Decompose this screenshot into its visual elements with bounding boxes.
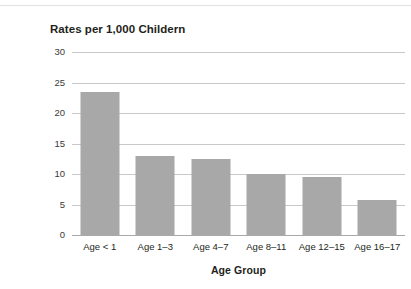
y-axis-tick-label: 5 <box>60 200 65 210</box>
bar-chart-figure: Rates per 1,000 Childern 051015202530 Ag… <box>0 0 411 289</box>
bar-group: Age < 1 <box>72 52 128 235</box>
y-axis-tick-label: 20 <box>54 108 65 118</box>
bar <box>302 177 341 235</box>
y-axis-tick-label: 30 <box>54 47 65 57</box>
bar-group: Age 1–3 <box>128 52 184 235</box>
x-axis-title: Age Group <box>72 264 405 276</box>
bar <box>80 92 119 235</box>
x-axis-tick-label: Age 1–3 <box>138 242 173 252</box>
y-axis-tick-label: 0 <box>60 230 65 240</box>
x-axis-tick-label: Age 8–11 <box>246 242 286 252</box>
y-axis-tick-label: 25 <box>54 78 65 88</box>
bar-group: Age 8–11 <box>239 52 295 235</box>
bar <box>191 159 230 235</box>
bar-group: Age 16–17 <box>350 52 406 235</box>
bars-group: Age < 1Age 1–3Age 4–7Age 8–11Age 12–15Ag… <box>72 52 405 235</box>
y-axis-tick-label: 15 <box>54 139 65 149</box>
bar <box>247 174 286 235</box>
bar <box>136 156 175 235</box>
y-axis-tick-label: 10 <box>54 169 65 179</box>
x-axis-tick-label: Age 4–7 <box>193 242 228 252</box>
bar-group: Age 4–7 <box>183 52 239 235</box>
x-axis-tick-label: Age 16–17 <box>354 242 400 252</box>
chart-title: Rates per 1,000 Childern <box>50 23 185 35</box>
x-axis-tick-label: Age < 1 <box>83 242 116 252</box>
plot-area: 051015202530 Age < 1Age 1–3Age 4–7Age 8–… <box>72 52 405 235</box>
x-axis-tick-label: Age 12–15 <box>299 242 345 252</box>
gridline-0 <box>72 235 405 236</box>
bar <box>358 200 397 235</box>
bar-group: Age 12–15 <box>294 52 350 235</box>
